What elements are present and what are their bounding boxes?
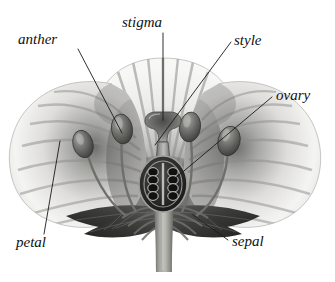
ovule	[168, 192, 178, 201]
label-ovary: ovary	[276, 87, 310, 103]
ovule	[168, 184, 178, 193]
label-petal: petal	[15, 234, 46, 250]
stem-body	[154, 206, 174, 272]
ovule	[168, 168, 178, 177]
flower-anatomy-diagram: anther stigma style ovary petal sepal	[0, 0, 335, 282]
label-style: style	[234, 32, 262, 48]
label-anther: anther	[18, 31, 57, 47]
label-stigma: stigma	[122, 14, 162, 30]
ovule	[148, 192, 158, 201]
ovule	[148, 168, 158, 177]
stem	[154, 206, 174, 272]
flower-illustration: anther stigma style ovary petal sepal	[0, 0, 335, 282]
ovule	[148, 176, 158, 185]
label-sepal: sepal	[232, 233, 264, 249]
ovule	[148, 184, 158, 193]
